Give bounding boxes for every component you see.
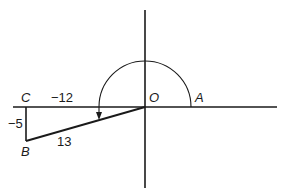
label-side-co: −12 [51,90,73,105]
trig-angle-diagram: C −12 O A −5 B 13 [0,0,286,192]
label-a: A [194,90,204,105]
label-side-ob: 13 [57,134,71,149]
label-side-cb: −5 [8,116,23,131]
side-ob [26,107,145,141]
label-b: B [21,144,30,159]
label-c: C [21,90,31,105]
label-o: O [149,90,159,105]
